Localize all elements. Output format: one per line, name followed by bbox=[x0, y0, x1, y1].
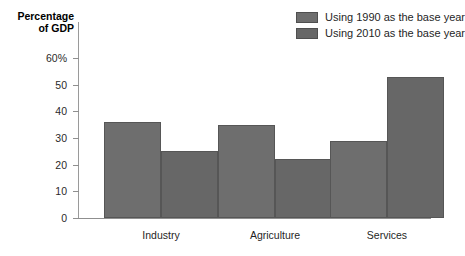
bar-group bbox=[104, 58, 218, 218]
bar bbox=[330, 141, 387, 218]
bar bbox=[387, 77, 444, 218]
bar-chart: Percentage of GDP Using 1990 as the base… bbox=[0, 0, 465, 256]
y-axis-tick-label: 20 bbox=[5, 160, 67, 170]
plot-area bbox=[79, 58, 431, 218]
bar bbox=[161, 151, 218, 218]
legend-item-2010: Using 2010 as the base year bbox=[296, 27, 465, 39]
legend-label-1990: Using 1990 as the base year bbox=[325, 11, 465, 23]
y-axis-tick-label: 0 bbox=[5, 213, 67, 223]
x-axis-line bbox=[78, 218, 431, 219]
bar bbox=[104, 122, 161, 218]
y-axis-tick-label: 40 bbox=[5, 106, 67, 116]
y-axis-tick-label: 30 bbox=[5, 133, 67, 143]
legend-swatch-2010 bbox=[296, 28, 318, 39]
y-axis-title-line-1: Percentage bbox=[6, 10, 74, 22]
y-axis-tick-label: 60% bbox=[5, 53, 67, 63]
legend: Using 1990 as the base year Using 2010 a… bbox=[296, 11, 465, 39]
bar bbox=[275, 159, 332, 218]
legend-label-2010: Using 2010 as the base year bbox=[325, 27, 465, 39]
y-axis-title: Percentage of GDP bbox=[6, 10, 74, 34]
y-axis-title-line-2: of GDP bbox=[6, 22, 74, 34]
y-axis-tick-label: 10 bbox=[5, 186, 67, 196]
y-axis-tick bbox=[73, 218, 79, 219]
legend-item-1990: Using 1990 as the base year bbox=[296, 11, 465, 23]
bar bbox=[218, 125, 275, 218]
legend-swatch-1990 bbox=[296, 12, 318, 23]
y-axis-tick-label: 50 bbox=[5, 80, 67, 90]
bar-group bbox=[330, 58, 444, 218]
x-axis-label: Services bbox=[310, 229, 464, 241]
bar-group bbox=[218, 58, 332, 218]
